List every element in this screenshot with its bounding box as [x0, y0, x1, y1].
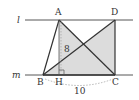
label-base-10: 10 — [74, 86, 86, 96]
label-height-8: 8 — [64, 44, 70, 54]
label-c: C — [112, 77, 119, 87]
label-line-m: m — [12, 70, 21, 80]
label-b: B — [37, 77, 44, 87]
label-h: H — [55, 77, 63, 87]
label-line-l: l — [17, 15, 20, 25]
label-a: A — [54, 7, 62, 17]
geometry-diagram: l m A D B H C 8 10 — [0, 0, 139, 100]
label-d: D — [111, 7, 118, 17]
